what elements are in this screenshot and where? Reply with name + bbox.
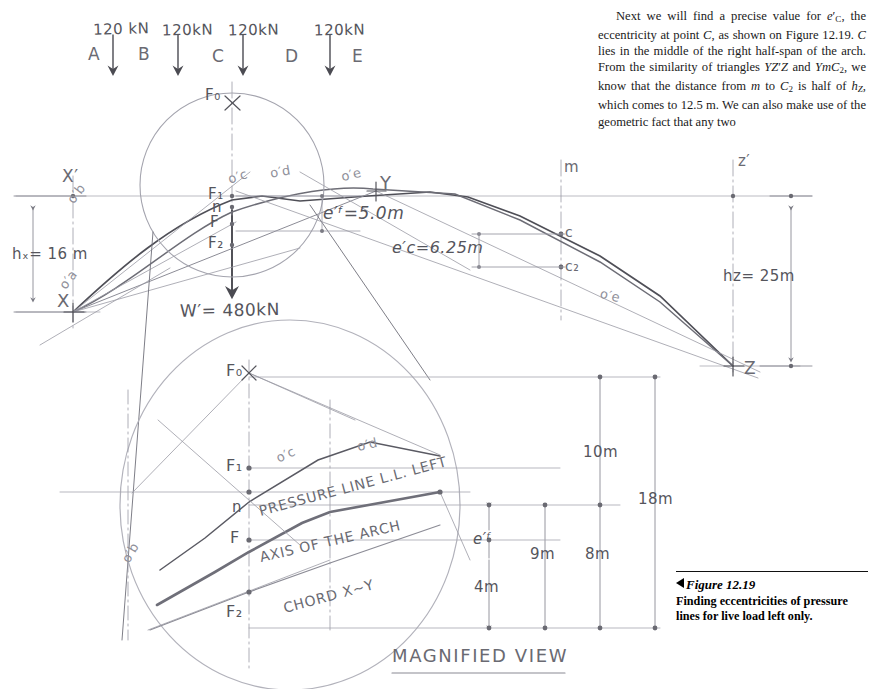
body-paragraph: Next we will find a precise value for e′… [598,8,866,130]
caption-title: Figure 12.19 [686,577,755,592]
magnifier-leaders [122,205,430,640]
mag-dim-9m: 9m [530,545,555,563]
load-point-a: A [88,44,100,64]
label-f: F [210,213,219,231]
caption-body: Finding eccentricities of pressure lines… [676,594,872,623]
caption-rule [676,571,868,572]
caption-title-row: Figure 12.19 [676,576,872,594]
load-label-2: 120kN [162,21,213,40]
load-label-4: 120kN [314,21,365,40]
mag-label-f0: F₀ [226,361,243,380]
dim-e-prime-c [472,234,565,267]
magnified-view-title: MAGNIFIED VIEW [392,645,568,666]
mag-dim-verticals [489,377,655,628]
mag-dim-10m: 10m [583,443,618,461]
dim-e-prime-F-label: e′ᶠ=5.0m [323,203,404,223]
figure-caption: Figure 12.19 Finding eccentricities of p… [676,576,872,623]
label-f2: F₂ [208,234,224,252]
label-c: c [565,224,573,240]
force-rays-right [236,172,760,378]
dim-hx-label: hₓ= 16 m [12,245,88,263]
dim-e-prime-c-label: e′ᴄ=6.25m [392,238,483,257]
node-markers [64,96,744,376]
label-f0: F₀ [205,86,221,104]
load-point-d: D [285,46,299,66]
mag-dim-4m: 4m [474,578,499,596]
mag-label-f: F [230,528,240,547]
mag-dim-e-prime-F: e′ᶠ [473,530,492,548]
node-dots [71,194,793,368]
mag-label-n: n [232,498,242,516]
load-point-e: E [352,46,363,66]
figure-page: 120 kN 120kN 120kN 120kN A B C D E W′= 4… [0,0,874,689]
label-m: m [564,158,579,176]
dim-hz-label: hᴢ= 25m [723,267,795,285]
load-label-1: 120 kN [93,19,150,38]
mag-dim-18m: 18m [638,490,673,508]
mag-label-f2: F₂ [226,602,243,621]
load-point-c: C [212,46,224,66]
label-c2: c₂ [565,258,579,274]
mag-label-f1: F₁ [226,456,243,475]
label-z-prime: z′ [738,152,750,170]
resultant-label: W′= 480kN [180,299,280,321]
label-z: Z [744,358,756,378]
mag-dim-8m: 8m [585,545,610,563]
load-point-b: B [138,44,150,64]
label-y: Y [380,172,392,193]
left-triangle-icon [676,578,684,588]
label-x: X [57,290,70,311]
load-label-3: 120kN [228,21,279,40]
mag-verticals [128,360,330,670]
